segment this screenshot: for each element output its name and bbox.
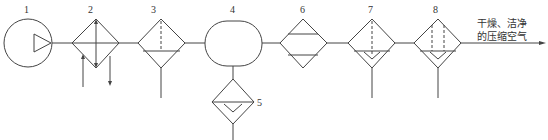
component-label: 7 xyxy=(368,4,373,15)
component-6-dryer: 6 xyxy=(280,4,327,68)
output-text-line2: 的压缩空气 xyxy=(477,30,527,42)
component-2-aftercooler: 2 xyxy=(72,4,119,87)
component-label: 5 xyxy=(257,97,262,108)
component-label: 3 xyxy=(151,4,156,15)
component-label: 2 xyxy=(88,4,93,15)
output-text-line1: 干燥、洁净 xyxy=(477,17,527,29)
component-5-drain-filter: 5 xyxy=(212,79,262,140)
component-3-separator: 3 xyxy=(138,4,185,98)
output-arrow-icon xyxy=(539,41,546,45)
component-1-compressor: 1 xyxy=(4,4,52,67)
component-label: 4 xyxy=(230,4,235,15)
component-label: 1 xyxy=(24,4,29,15)
component-4-receiver: 4 xyxy=(205,4,262,79)
component-8-fine-filter: 8 xyxy=(414,4,461,98)
component-label: 8 xyxy=(433,4,438,15)
component-7-filter: 7 xyxy=(348,4,395,98)
coolant-out-arrow-icon xyxy=(108,81,112,86)
component-label: 6 xyxy=(300,4,305,15)
pneumatic-system-diagram: 1 2 3 4 5 6 xyxy=(0,0,548,140)
